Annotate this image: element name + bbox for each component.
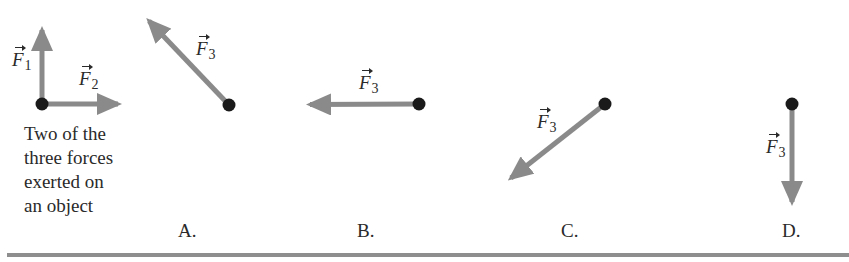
- label-f3-a: F3: [196, 39, 216, 58]
- option-c-diagram: [511, 98, 612, 179]
- object-dot-c: [599, 98, 612, 111]
- object-dot-a: [223, 99, 236, 112]
- option-b-diagram: [310, 98, 426, 111]
- option-c-label: C.: [561, 221, 578, 240]
- option-a-label: A.: [178, 221, 196, 240]
- force-f3-arrow-b: [310, 104, 419, 105]
- label-f3-b: F3: [359, 73, 379, 92]
- caption-line: exerted on: [24, 170, 154, 194]
- object-dot-b: [413, 98, 426, 111]
- label-f1: F1: [12, 50, 32, 69]
- option-a-diagram: [149, 21, 236, 112]
- caption-line: Two of the: [24, 122, 154, 146]
- label-f3-c: F3: [537, 112, 557, 131]
- label-f3-d: F3: [766, 137, 786, 156]
- option-d-diagram: [786, 98, 799, 203]
- given-forces: [36, 30, 119, 111]
- caption-line: an object: [24, 194, 154, 218]
- caption-line: three forces: [24, 146, 154, 170]
- vector-symbol: F: [79, 69, 91, 88]
- label-f2: F2: [79, 69, 99, 88]
- vector-symbol: F: [537, 112, 549, 131]
- option-d-label: D.: [782, 221, 800, 240]
- vector-symbol: F: [359, 73, 371, 92]
- vector-symbol: F: [766, 137, 778, 156]
- object-dot: [36, 98, 49, 111]
- bottom-divider: [7, 253, 849, 257]
- vector-symbol: F: [12, 50, 24, 69]
- vector-symbol: F: [196, 39, 208, 58]
- force-f3-arrow-c: [511, 104, 605, 178]
- force-f3-arrow-a: [149, 21, 229, 105]
- option-b-label: B.: [357, 221, 374, 240]
- given-caption: Two of the three forces exerted on an ob…: [24, 122, 154, 218]
- object-dot-d: [786, 98, 799, 111]
